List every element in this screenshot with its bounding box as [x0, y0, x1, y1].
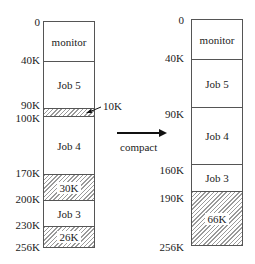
address-label: 160K — [148, 164, 184, 176]
compact-label: compact — [120, 141, 157, 153]
segment-monitor: monitor — [192, 20, 242, 59]
segment-label: 66K — [205, 213, 230, 225]
arrow-right-icon — [159, 129, 167, 137]
segment-hole-66k: 66K — [192, 191, 242, 245]
address-label: 40K — [148, 52, 184, 64]
segment-label: Job 3 — [205, 172, 229, 184]
address-label: 256K — [148, 241, 184, 253]
segment-job4: Job 4 — [192, 107, 242, 164]
address-label: 0 — [148, 14, 184, 26]
address-label: 90K — [148, 108, 184, 120]
segment-job3: Job 3 — [192, 164, 242, 191]
segment-label: Job 5 — [205, 78, 229, 90]
memory-column-after: monitor Job 5 Job 4 Job 3 66K — [191, 19, 243, 246]
arrow-line — [117, 132, 160, 134]
segment-label: monitor — [200, 34, 235, 46]
callout-label: 10K — [103, 100, 122, 112]
address-label: 190K — [148, 192, 184, 204]
segment-label: Job 4 — [205, 130, 229, 142]
segment-job5: Job 5 — [192, 59, 242, 107]
